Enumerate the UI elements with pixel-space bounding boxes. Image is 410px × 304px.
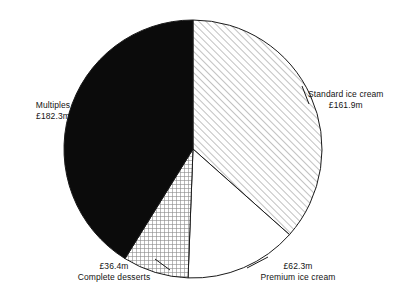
pie-label-multiples-value: £182.3m	[22, 111, 84, 122]
pie-label-premium-ice-cream: £62.3m Premium ice cream	[246, 261, 350, 283]
pie-label-complete-desserts-name: Complete desserts	[66, 272, 162, 283]
pie-label-standard-ice-cream: Standard ice cream £161.9m	[308, 89, 384, 111]
pie-slices	[64, 20, 322, 278]
pie-label-premium-ice-cream-name: Premium ice cream	[246, 272, 350, 283]
pie-label-standard-ice-cream-name: Standard ice cream	[308, 89, 384, 100]
pie-label-complete-desserts: £36.4m Complete desserts	[66, 261, 162, 283]
pie-label-premium-ice-cream-value: £62.3m	[246, 261, 350, 272]
pie-chart: Standard ice cream £161.9m Multiples £18…	[0, 0, 410, 304]
pie-label-multiples: Multiples £182.3m	[22, 100, 84, 122]
pie-label-standard-ice-cream-value: £161.9m	[308, 100, 384, 111]
pie-chart-canvas	[0, 0, 410, 304]
pie-label-complete-desserts-value: £36.4m	[66, 261, 162, 272]
pie-label-multiples-name: Multiples	[22, 100, 84, 111]
